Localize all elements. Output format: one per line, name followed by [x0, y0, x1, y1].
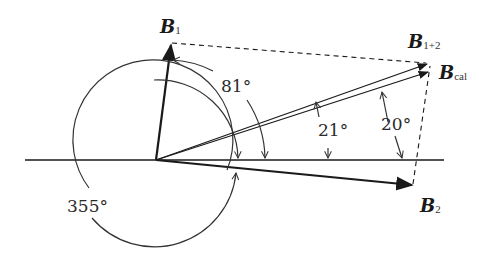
dashed-b2-to-b12 [413, 66, 430, 184]
angle-arc-355 [73, 60, 233, 188]
angle-label-81: 81° [221, 76, 251, 96]
label-bcal: Bcal [438, 62, 467, 83]
angle-arc-355-lower [92, 173, 236, 247]
angle-arrow-21-up [316, 102, 319, 117]
angle-arc-81-upper [173, 60, 213, 71]
angle-label-355: 355° [67, 196, 108, 216]
angle-label-21: 21° [318, 120, 348, 140]
angle-arrow-20-down [395, 136, 402, 158]
vector-b2 [156, 160, 412, 185]
vector-b1 [156, 45, 171, 160]
vector-diagram: B1 B1+2 Bcal B2 81° 21° 20° 355° [0, 0, 491, 263]
angle-arc-b12 [247, 100, 265, 158]
dashed-b1-to-b12 [172, 43, 426, 63]
label-b2: B2 [419, 195, 441, 216]
angle-label-20: 20° [381, 114, 411, 134]
label-b12: B1+2 [407, 31, 440, 52]
label-b1: B1 [159, 16, 181, 37]
